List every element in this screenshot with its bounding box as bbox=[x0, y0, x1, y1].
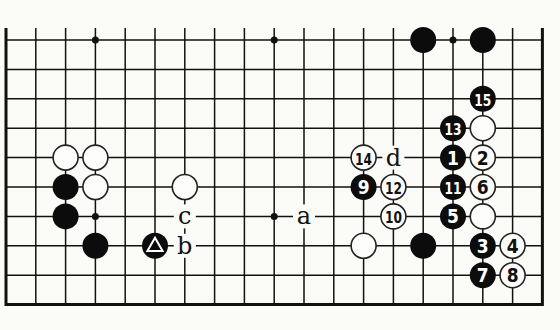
black-stone-5: 5 bbox=[440, 203, 466, 229]
move-number: 1 bbox=[447, 147, 459, 169]
white-stone bbox=[53, 145, 78, 170]
move-number: 11 bbox=[445, 179, 462, 198]
stone-body bbox=[53, 145, 78, 170]
black-stone bbox=[410, 27, 436, 53]
black-stone bbox=[53, 174, 79, 200]
white-stone bbox=[172, 175, 197, 200]
hoshi-point bbox=[271, 213, 278, 220]
white-stone bbox=[83, 145, 108, 170]
letter-a: a bbox=[297, 202, 311, 230]
hoshi-point bbox=[271, 37, 278, 44]
stone-body bbox=[410, 27, 436, 53]
stone-body bbox=[53, 203, 79, 229]
black-stone-7: 7 bbox=[470, 262, 496, 288]
move-number: 9 bbox=[358, 176, 370, 198]
letter-c: c bbox=[178, 202, 191, 230]
stone-body bbox=[83, 145, 108, 170]
white-stone-6: 6 bbox=[470, 175, 495, 200]
white-stone bbox=[83, 175, 108, 200]
move-number: 14 bbox=[355, 150, 372, 169]
letter-d: d bbox=[386, 144, 401, 172]
move-number: 6 bbox=[477, 176, 489, 198]
white-stone bbox=[470, 204, 495, 229]
stone-body bbox=[82, 233, 108, 259]
letter-label-d: d bbox=[382, 144, 404, 172]
black-stone-13: 13 bbox=[440, 115, 466, 141]
black-stone-9: 9 bbox=[351, 174, 377, 200]
move-number: 12 bbox=[385, 179, 402, 198]
hoshi-point bbox=[92, 213, 99, 220]
black-stone bbox=[142, 233, 168, 259]
white-stone-2: 2 bbox=[470, 145, 495, 170]
move-number: 2 bbox=[477, 147, 489, 169]
black-stone bbox=[82, 233, 108, 259]
stone-body bbox=[470, 27, 496, 53]
black-stone-11: 11 bbox=[440, 174, 466, 200]
move-number: 7 bbox=[477, 264, 489, 286]
move-number: 3 bbox=[477, 235, 489, 257]
move-number: 5 bbox=[447, 205, 459, 227]
letter-label-c: c bbox=[174, 202, 196, 230]
stone-body bbox=[172, 175, 197, 200]
white-stone-14: 14 bbox=[351, 145, 376, 170]
stone-body bbox=[470, 116, 495, 141]
white-stone-4: 4 bbox=[500, 233, 525, 258]
stone-body bbox=[470, 204, 495, 229]
black-stone bbox=[470, 27, 496, 53]
black-stone-3: 3 bbox=[470, 233, 496, 259]
white-stone bbox=[351, 233, 376, 258]
white-stone-12: 12 bbox=[381, 175, 406, 200]
black-stone-15: 15 bbox=[470, 86, 496, 112]
hoshi-point bbox=[92, 37, 99, 44]
white-stone-8: 8 bbox=[500, 263, 525, 288]
letter-b: b bbox=[177, 232, 192, 260]
stone-body bbox=[351, 233, 376, 258]
hoshi-point bbox=[450, 37, 457, 44]
black-stone-1: 1 bbox=[440, 145, 466, 171]
move-number: 10 bbox=[385, 208, 402, 227]
move-number: 8 bbox=[507, 264, 519, 286]
move-number: 15 bbox=[474, 91, 491, 110]
stone-body bbox=[53, 174, 79, 200]
black-stone bbox=[410, 233, 436, 259]
stone-body bbox=[410, 233, 436, 259]
go-board: dacb151314129121161053478 bbox=[0, 0, 560, 330]
white-stone-10: 10 bbox=[381, 204, 406, 229]
letter-label-b: b bbox=[174, 232, 196, 260]
move-number: 13 bbox=[445, 120, 462, 139]
white-stone bbox=[470, 116, 495, 141]
stone-body bbox=[83, 175, 108, 200]
go-board-diagram: dacb151314129121161053478 bbox=[0, 0, 560, 330]
black-stone bbox=[53, 203, 79, 229]
letter-label-a: a bbox=[293, 202, 315, 230]
move-number: 4 bbox=[507, 235, 519, 257]
